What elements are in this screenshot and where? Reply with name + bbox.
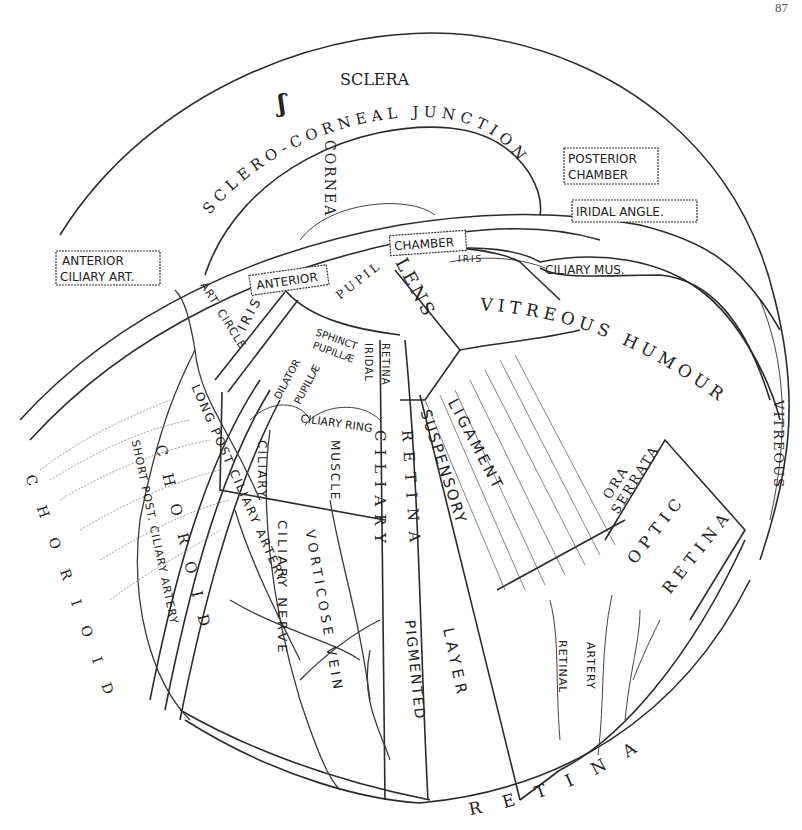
label-layer: LAYER — [439, 626, 472, 700]
vessels — [40, 290, 660, 790]
label-choroid-outer: CHORIOID — [22, 472, 124, 717]
label-retina-bottom: RETINA — [467, 726, 658, 819]
label-anterior-ciliary-art-1: ANTERIOR — [62, 254, 124, 268]
label-retinal: RETINAL — [556, 640, 569, 693]
label-iridal-retina: RETINA — [380, 343, 391, 386]
label-posterior-chamber-1: POSTERIOR — [568, 152, 637, 166]
label-ciliary-zone: CILIARY — [255, 440, 269, 499]
label-pupil: PUPIL — [333, 258, 384, 302]
label-iris: IRIS — [234, 294, 265, 334]
label-vitreous-right: VITREOUS — [771, 399, 786, 489]
label-iridal-angle: IRIDAL ANGLE. — [576, 205, 664, 219]
brace-icon: ʃ — [276, 89, 288, 118]
label-lens: LENS — [391, 254, 440, 321]
label-ciliary-ring: CILIARY RING — [300, 412, 374, 435]
label-cornea: CORNEA — [322, 140, 338, 217]
label-iris-small: IRIS — [458, 254, 483, 264]
eye-anatomy-diagram: SCLERA ʃ SCLERO-CORNEAL JUNCTION CORNEA … — [0, 0, 802, 830]
labels: SCLERA ʃ SCLERO-CORNEAL JUNCTION CORNEA … — [22, 70, 785, 819]
label-anterior-ciliary-art-2: CILIARY ART. — [60, 270, 134, 284]
label-ciliary-nerve: CILIARY NERVE — [275, 520, 290, 656]
label-ciliary-mus: CILIARY MUS. — [545, 263, 625, 277]
label-ciliary-retina-1: CILIARY — [371, 430, 389, 551]
label-iridal: IRIDAL — [363, 343, 374, 382]
label-vitreous-humour: VITREOUS HUMOUR — [479, 294, 732, 407]
diagram-outlines — [20, 33, 789, 803]
label-sclero-corneal-junction: SCLERO-CORNEAL JUNCTION — [199, 103, 532, 218]
label-ciliary-retina-2: RETINA — [398, 429, 424, 552]
label-vorticose-vein: VORTICOSE VEIN — [303, 529, 346, 694]
label-artery: ARTERY — [584, 642, 597, 690]
label-posterior-chamber-2: CHAMBER — [568, 168, 628, 182]
label-optic: OPTIC — [623, 490, 689, 567]
label-muscle: MUSCLE — [328, 440, 342, 501]
label-sclera-top: SCLERA — [340, 70, 410, 89]
label-pigmented: PIGMENTED — [402, 619, 428, 721]
